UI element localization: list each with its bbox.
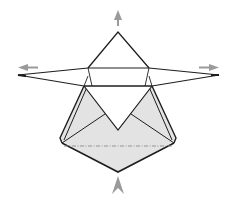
origami-diagram — [0, 0, 226, 204]
arrow-right-icon — [199, 64, 219, 71]
arrow-bottom-up-icon — [112, 176, 124, 194]
lower-body — [60, 86, 176, 172]
arrow-left-icon — [18, 64, 38, 71]
upper-flap — [84, 32, 152, 86]
side-points — [18, 68, 219, 86]
arrow-up-icon — [114, 10, 122, 26]
